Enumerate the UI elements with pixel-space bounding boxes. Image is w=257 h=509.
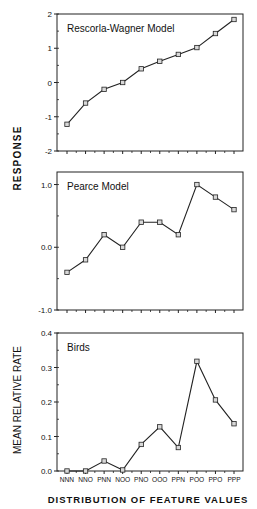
- panel-birds: 0.40.30.20.10.0NNNNNOPNNNOOPNOOOOPPNPOOP…: [41, 329, 243, 483]
- series-line: [67, 361, 234, 471]
- data-point-marker: [158, 425, 162, 429]
- x-axis-title: DISTRIBUTION OF FEATURE VALUES: [48, 494, 249, 505]
- data-point-marker: [83, 469, 87, 473]
- data-point-marker: [158, 220, 162, 224]
- data-point-marker: [65, 469, 69, 473]
- data-point-marker: [232, 207, 236, 211]
- x-category-label: POO: [190, 476, 205, 483]
- panels-group: 210-1-2Rescorla-Wagner Model1.00.0-1.0Pe…: [38, 10, 243, 483]
- data-point-marker: [232, 422, 236, 426]
- x-category-label: PNO: [134, 476, 148, 483]
- data-point-marker: [213, 31, 217, 35]
- x-category-label: PNN: [97, 476, 111, 483]
- series-line: [67, 20, 234, 125]
- y-tick-label: 1.0: [41, 181, 53, 190]
- panel-title: Rescorla-Wagner Model: [67, 23, 174, 34]
- y-tick-label: -1: [45, 113, 53, 122]
- panel-pearce-model: 1.00.0-1.0Pearce Model: [38, 172, 243, 315]
- series-line: [67, 185, 234, 273]
- x-category-label: PPO: [208, 476, 222, 483]
- x-category-label: PPN: [172, 476, 186, 483]
- data-point-marker: [83, 101, 87, 105]
- data-point-marker: [195, 182, 199, 186]
- y-tick-label: 0.1: [41, 433, 53, 442]
- y-tick-label: 0.3: [41, 364, 53, 373]
- y-tick-label: 0.0: [41, 467, 53, 476]
- data-point-marker: [176, 445, 180, 449]
- data-point-marker: [213, 195, 217, 199]
- panel-rescorla-wagner-model: 210-1-2Rescorla-Wagner Model: [45, 10, 243, 156]
- data-point-marker: [120, 245, 124, 249]
- x-category-label: NNN: [60, 476, 75, 483]
- data-point-marker: [176, 233, 180, 237]
- data-point-marker: [213, 398, 217, 402]
- data-point-marker: [102, 459, 106, 463]
- panel-title: Birds: [67, 342, 90, 353]
- data-point-marker: [83, 258, 87, 262]
- y-tick-label: -2: [45, 147, 53, 156]
- data-point-marker: [120, 468, 124, 472]
- plot-frame: [57, 172, 243, 310]
- y-axis-label-mean-relative-rate: MEAN RELATIVE RATE: [12, 346, 23, 454]
- y-tick-label: 0.2: [41, 398, 53, 407]
- data-point-marker: [139, 442, 143, 446]
- y-tick-label: 2: [48, 10, 53, 19]
- y-tick-label: 0.0: [41, 243, 53, 252]
- y-axis-label-response: RESPONSE: [12, 125, 23, 190]
- data-point-marker: [195, 359, 199, 363]
- x-category-label: PPP: [227, 476, 241, 483]
- data-point-marker: [102, 233, 106, 237]
- data-point-marker: [120, 80, 124, 84]
- x-category-label: OOO: [152, 476, 167, 483]
- data-point-marker: [139, 220, 143, 224]
- data-point-marker: [195, 45, 199, 49]
- data-point-marker: [65, 270, 69, 274]
- data-point-marker: [102, 87, 106, 91]
- panel-title: Pearce Model: [67, 181, 129, 192]
- y-tick-label: 0.4: [41, 329, 53, 338]
- y-tick-label: 1: [48, 44, 53, 53]
- data-point-marker: [65, 122, 69, 126]
- data-point-marker: [158, 59, 162, 63]
- figure: 210-1-2Rescorla-Wagner Model1.00.0-1.0Pe…: [0, 0, 257, 509]
- y-tick-label: 0: [48, 79, 53, 88]
- data-point-marker: [176, 52, 180, 56]
- x-category-label: NOO: [115, 476, 130, 483]
- data-point-marker: [139, 67, 143, 71]
- y-tick-label: -1.0: [38, 306, 52, 315]
- data-point-marker: [232, 17, 236, 21]
- x-category-label: NNO: [78, 476, 93, 483]
